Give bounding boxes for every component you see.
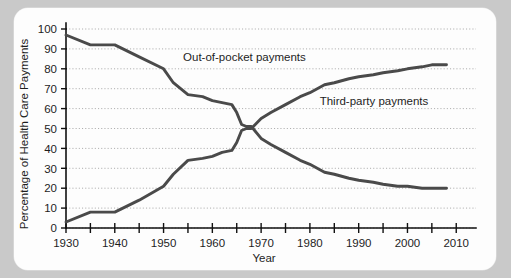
y-axis: 0102030405060708090100: [38, 23, 67, 234]
series-annotations: Out-of-pocket paymentsThird-party paymen…: [183, 51, 428, 107]
y-tick-label-80: 80: [44, 63, 57, 75]
line-chart: 0102030405060708090100 19301940195019601…: [14, 8, 496, 270]
x-tick-label-1940: 1940: [102, 237, 128, 249]
x-tick-label-1960: 1960: [200, 237, 226, 249]
x-tick-label-1990: 1990: [346, 237, 372, 249]
y-tick-label-70: 70: [44, 83, 57, 95]
x-axis-title: Year: [252, 252, 275, 264]
x-tick-label-2010: 2010: [443, 237, 469, 249]
x-axis: 193019401950196019701980199020002010: [53, 223, 476, 249]
x-tick-label-1950: 1950: [151, 237, 177, 249]
y-tick-label-90: 90: [44, 43, 57, 55]
y-axis-title: Percentage of Health Care Payments: [18, 39, 30, 230]
y-tick-label-40: 40: [44, 143, 57, 155]
y-tick-label-50: 50: [44, 123, 57, 135]
x-tick-label-1980: 1980: [297, 237, 323, 249]
chart-panel: 0102030405060708090100 19301940195019601…: [14, 8, 496, 270]
y-tick-label-0: 0: [51, 222, 57, 234]
series-label-third-party: Third-party payments: [320, 95, 429, 107]
y-tick-label-10: 10: [44, 202, 57, 214]
x-tick-label-1930: 1930: [53, 237, 79, 249]
x-tick-label-1970: 1970: [248, 237, 274, 249]
y-tick-label-60: 60: [44, 103, 57, 115]
x-tick-label-2000: 2000: [395, 237, 421, 249]
series-label-out-of-pocket: Out-of-pocket payments: [183, 51, 306, 63]
y-tick-label-20: 20: [44, 182, 57, 194]
y-tick-label-100: 100: [38, 23, 57, 35]
y-tick-label-30: 30: [44, 163, 57, 175]
